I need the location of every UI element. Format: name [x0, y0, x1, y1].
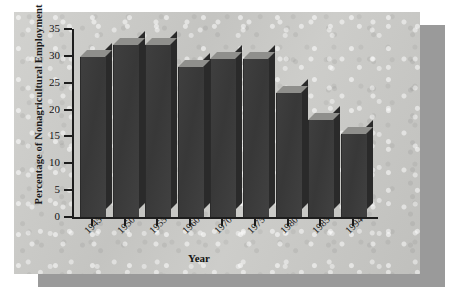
y-tick-label: 0	[30, 211, 60, 222]
y-tick-label: 15	[30, 130, 60, 141]
y-tick	[64, 55, 72, 57]
x-axis-title: Year	[124, 252, 274, 264]
bar-side-face	[203, 53, 210, 210]
bar-side-face	[138, 31, 145, 210]
bar-front-face	[80, 57, 106, 217]
bar	[113, 12, 138, 217]
bar-side-face	[105, 43, 112, 210]
y-tick-label: 30	[30, 50, 60, 61]
y-tick-label: 10	[30, 157, 60, 168]
bar-chart: Percentage of Nonagricultural Employment…	[14, 12, 420, 274]
bar	[341, 12, 366, 217]
y-tick	[64, 28, 72, 30]
y-tick	[64, 109, 72, 111]
y-tick	[64, 216, 72, 218]
bar	[145, 12, 170, 217]
bar-side-face	[333, 106, 340, 210]
y-tick-label: 5	[30, 184, 60, 195]
bar-side-face	[268, 45, 275, 210]
bar-side-face	[366, 120, 373, 210]
bar	[243, 12, 268, 217]
y-tick-label: 20	[30, 104, 60, 115]
y-tick	[64, 189, 72, 191]
y-tick	[64, 135, 72, 137]
bar-front-face	[243, 59, 269, 217]
figure-panel: Percentage of Nonagricultural Employment…	[14, 12, 420, 274]
bar-side-face	[170, 31, 177, 210]
bar	[178, 12, 203, 217]
bar-front-face	[276, 93, 302, 217]
bar	[308, 12, 333, 217]
y-axis-line	[72, 29, 74, 219]
bar-front-face	[145, 45, 171, 217]
bar	[276, 12, 301, 217]
bar	[210, 12, 235, 217]
bar-front-face	[308, 120, 334, 217]
bar	[80, 12, 105, 217]
bar-side-face	[235, 45, 242, 210]
bar-side-face	[301, 79, 308, 210]
bar-front-face	[210, 59, 236, 217]
y-tick-label: 25	[30, 77, 60, 88]
y-tick	[64, 162, 72, 164]
y-tick-label: 35	[30, 23, 60, 34]
bar-front-face	[113, 45, 139, 217]
y-tick	[64, 82, 72, 84]
bar-front-face	[341, 134, 367, 217]
bar-front-face	[178, 67, 204, 217]
